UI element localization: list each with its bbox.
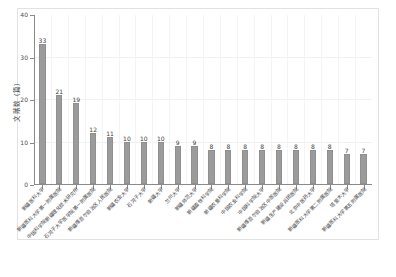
y-tick-mark xyxy=(30,185,34,186)
bar: 12 xyxy=(90,133,96,184)
gridline xyxy=(220,15,221,185)
bar-value-label: 8 xyxy=(294,144,298,150)
gridline xyxy=(135,15,136,185)
bar: 8 xyxy=(208,150,214,184)
gridline xyxy=(68,15,69,185)
gridline xyxy=(152,15,153,185)
bar: 7 xyxy=(360,154,366,184)
gridline xyxy=(237,15,238,185)
y-tick-mark xyxy=(30,15,34,16)
bar-value-label: 8 xyxy=(328,144,332,150)
bar-value-label: 19 xyxy=(72,97,80,103)
bar: 10 xyxy=(124,142,130,185)
bar-value-label: 10 xyxy=(140,136,148,142)
bar: 8 xyxy=(327,150,333,184)
y-tick-label: 0 xyxy=(24,182,28,188)
bar: 8 xyxy=(225,150,231,184)
plot-area: 3321191211101010998888888877 010203040 xyxy=(34,15,372,185)
bar: 8 xyxy=(310,150,316,184)
bar: 19 xyxy=(73,103,79,184)
gridline xyxy=(304,15,305,185)
bar: 11 xyxy=(107,137,113,184)
gridline xyxy=(102,15,103,185)
bar-value-label: 9 xyxy=(176,140,180,146)
bar-value-label: 8 xyxy=(260,144,264,150)
chart-figure: 文献数（篇） 3321191211101010998888888877 0102… xyxy=(0,0,396,277)
y-tick-label: 20 xyxy=(20,97,28,103)
bar-value-label: 8 xyxy=(210,144,214,150)
bar: 10 xyxy=(141,142,147,185)
x-axis-line xyxy=(34,184,372,185)
bar-value-label: 7 xyxy=(345,148,349,154)
bar-value-label: 10 xyxy=(157,136,165,142)
bar-value-label: 8 xyxy=(243,144,247,150)
y-tick-label: 30 xyxy=(20,55,28,61)
y-tick-mark xyxy=(30,100,34,101)
bar-value-label: 8 xyxy=(311,144,315,150)
bar-value-label: 11 xyxy=(106,131,114,137)
y-axis-line xyxy=(34,15,35,185)
bar: 9 xyxy=(175,146,181,184)
gridline xyxy=(338,15,339,185)
bar-value-label: 9 xyxy=(193,140,197,146)
bar-value-label: 33 xyxy=(39,38,47,44)
gridline xyxy=(321,15,322,185)
bar-value-label: 21 xyxy=(56,89,64,95)
gridline xyxy=(287,15,288,185)
bar: 10 xyxy=(158,142,164,185)
bar-value-label: 10 xyxy=(123,136,131,142)
bar: 9 xyxy=(191,146,197,184)
gridline xyxy=(203,15,204,185)
bar: 8 xyxy=(259,150,265,184)
y-tick-label: 10 xyxy=(20,140,28,146)
plot-inner: 3321191211101010998888888877 xyxy=(34,15,372,185)
gridline xyxy=(254,15,255,185)
bar-value-label: 7 xyxy=(362,148,366,154)
gridline xyxy=(119,15,120,185)
bar: 7 xyxy=(344,154,350,184)
bar-value-label: 12 xyxy=(89,127,97,133)
gridline xyxy=(169,15,170,185)
gridline xyxy=(51,15,52,185)
gridline xyxy=(271,15,272,185)
bar: 33 xyxy=(39,44,45,184)
bar: 8 xyxy=(242,150,248,184)
y-tick-mark xyxy=(30,58,34,59)
gridline xyxy=(355,15,356,185)
gridline xyxy=(186,15,187,185)
y-tick-label: 40 xyxy=(20,12,28,18)
y-tick-mark xyxy=(30,143,34,144)
bar-value-label: 8 xyxy=(226,144,230,150)
bar: 8 xyxy=(276,150,282,184)
bar: 21 xyxy=(56,95,62,184)
x-axis-labels: 新疆医科大学新疆医科大学第一附属医院中国科学院新疆理化技术研究所石河子大学医学院… xyxy=(34,187,372,275)
gridline xyxy=(85,15,86,185)
bar-value-label: 8 xyxy=(277,144,281,150)
bar: 8 xyxy=(293,150,299,184)
